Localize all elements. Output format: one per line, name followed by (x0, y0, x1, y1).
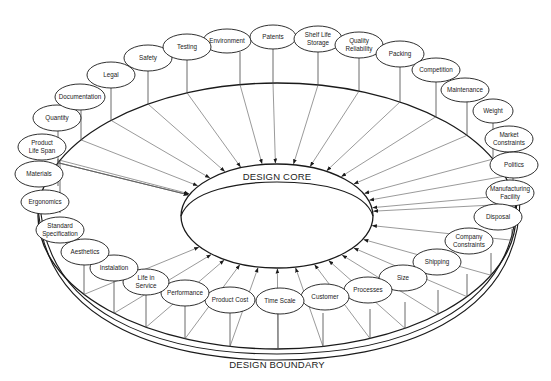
node-label: Performance (167, 289, 204, 296)
node-label: Service (136, 282, 157, 289)
connector-arrow (294, 85, 318, 164)
node-label: Manufacturing (490, 185, 530, 193)
node-processes: Processes (344, 277, 392, 303)
connector-arrow (187, 93, 240, 167)
node-label: Product (31, 139, 53, 146)
node-weight: Weight (473, 99, 513, 123)
node-label: Constraints (453, 241, 485, 248)
node-product-cost: Product Cost (205, 287, 255, 313)
node-label: Patents (262, 33, 283, 40)
node-label: Packing (389, 50, 412, 58)
node-disposal: Disposal (474, 204, 522, 230)
node-label: Ergonomics (28, 198, 61, 206)
node-standard-specification: StandardSpecification (36, 217, 84, 243)
design-core-label: DESIGN CORE (243, 171, 312, 182)
node-label: Environment (209, 37, 245, 44)
connector-arrow (273, 83, 275, 163)
node-shelf-life-storage: Shelf LifeStorage (294, 26, 342, 52)
node-label: Product Cost (212, 296, 249, 303)
node-politics: Politics (490, 152, 538, 178)
node-label: Market (499, 131, 518, 138)
node-patents: Patents (250, 25, 296, 49)
node-label: Safety (139, 54, 158, 62)
node-testing: Testing (163, 34, 211, 60)
node-label: Standard (47, 222, 73, 229)
node-label: Processes (353, 286, 382, 293)
node-label: Storage (307, 39, 330, 47)
node-label: Instalation (100, 264, 129, 271)
node-aesthetics: Aesthetics (61, 239, 109, 265)
node-label: Politics (504, 161, 524, 168)
connector-arrow (310, 91, 359, 166)
node-label: Competition (419, 66, 453, 74)
node-label: Disposal (486, 213, 510, 221)
connector-arrow (58, 163, 188, 195)
design-boundary-diagram: DESIGN CORE EnvironmentPatentsShelf Life… (0, 0, 551, 381)
design-boundary-label: DESIGN BOUNDARY (229, 359, 325, 370)
node-label: Reliability (346, 45, 374, 53)
node-label: Quantity (45, 114, 69, 122)
node-label: Time Scale (264, 297, 296, 304)
node-label: Aesthetics (70, 248, 99, 255)
node-label: Quality (349, 37, 369, 45)
design-core: DESIGN CORE (181, 164, 373, 268)
node-product-life-span: ProductLife Span (18, 134, 66, 160)
node-label: Constraints (493, 139, 525, 146)
node-label: Testing (177, 43, 197, 51)
connector-arrow (111, 120, 210, 178)
node-maintenance: Maintenance (441, 78, 489, 102)
connector-arrow (354, 135, 467, 184)
node-label: Company (456, 233, 484, 241)
node-label: Life Span (29, 147, 56, 155)
node-customer: Customer (301, 284, 349, 310)
connector-arrow (370, 176, 505, 200)
node-materials: Materials (15, 161, 63, 187)
node-company-constraints: CompanyConstraints (445, 228, 493, 254)
connector-arrow (240, 85, 262, 164)
node-label: Facility (500, 193, 520, 201)
node-time-scale: Time Scale (256, 288, 304, 314)
node-label: Shipping (425, 258, 450, 266)
node-legal: Legal (87, 62, 135, 88)
node-label: Legal (103, 71, 118, 79)
node-documentation: Documentation (55, 84, 105, 110)
node-label: Size (397, 274, 410, 281)
node-label: Weight (483, 107, 503, 115)
node-competition: Competition (412, 58, 460, 82)
connector-arrow (342, 117, 436, 177)
node-label: Shelf Life (305, 31, 332, 38)
node-label: Specification (42, 230, 78, 238)
node-market-constraints: MarketConstraints (485, 126, 533, 152)
node-label: Documentation (59, 93, 102, 100)
connector-arrow (327, 102, 400, 171)
connector-arrow (60, 160, 189, 194)
node-label: Materials (26, 170, 52, 177)
node-ergonomics: Ergonomics (21, 190, 69, 214)
node-label: Maintenance (447, 86, 484, 93)
diagram-canvas: DESIGN CORE EnvironmentPatentsShelf Life… (0, 0, 551, 381)
connector-arrow (81, 140, 197, 186)
connector-arrow (148, 104, 225, 171)
node-label: Customer (311, 293, 338, 300)
node-manufacturing-facility: ManufacturingFacility (486, 180, 534, 206)
connector-arrow (365, 159, 493, 193)
node-label: Life in (138, 274, 155, 281)
